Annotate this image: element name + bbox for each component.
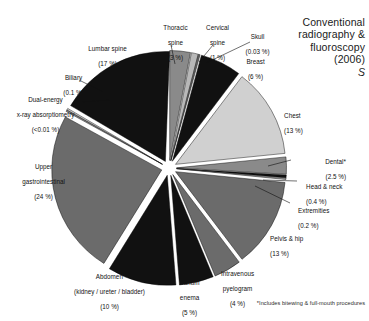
label-text: Thoracic (163, 24, 187, 31)
slice-label-chest: Chest (13 %) (277, 104, 327, 142)
label-text: spine (210, 39, 225, 46)
label-value: (5 %) (182, 309, 197, 316)
label-value: (6 %) (248, 73, 263, 80)
label-value: (17 %) (98, 60, 117, 67)
label-text: Pelvis & hip (270, 235, 303, 242)
label-text: gastrointestinal (22, 178, 65, 185)
label-text: Head & neck (306, 183, 342, 190)
label-text: Intravenous (221, 270, 254, 277)
chart-title: Conventional radiography & fluoroscopy (… (298, 16, 365, 78)
label-text: Lumbar spine (88, 45, 126, 52)
title-series-mark: S (298, 66, 365, 78)
slice-label-barium-enema: Barium enema (5 %) (164, 271, 208, 321)
label-value: (13 %) (270, 250, 289, 257)
chart-footnote: *Includes bitewing & full-mouth procedur… (257, 300, 365, 306)
title-line-2: radiography & (298, 28, 365, 40)
title-line-4: (2006) (334, 53, 365, 65)
label-text: (kidney / ureter / bladder) (74, 288, 145, 295)
label-text: x-ray absorptiometry (17, 111, 75, 118)
label-text: Upper (35, 163, 52, 170)
slice-label-abdomen: Abdomen (kidney / ureter / bladder) (10 … (44, 265, 168, 319)
label-text: Cervical (206, 24, 229, 31)
label-value: (24 %) (34, 193, 53, 200)
title-line-3: fluoroscopy (310, 41, 365, 53)
slice-label-intravenous-pyelogram: Intravenous pyelogram (4 %) (205, 262, 263, 316)
label-value: (3 %) (168, 54, 183, 61)
slice-label-lumbar-spine: Lumbar spine (17 %) (66, 37, 142, 75)
label-text: Breast (246, 58, 264, 65)
label-text: Skull (251, 33, 265, 40)
label-text: spine (168, 39, 183, 46)
slice-label-breast: Breast (6 %) (228, 50, 276, 88)
label-text: Dental* (325, 158, 346, 165)
label-value: (10 %) (100, 303, 119, 310)
label-value: (1 %) (210, 54, 225, 61)
label-text: pyelogram (223, 285, 253, 292)
title-line-1: Conventional (303, 16, 366, 28)
label-value: (<0.01 %) (32, 126, 60, 133)
label-text: Abdomen (96, 273, 123, 280)
label-value: (0.1 %) (63, 89, 83, 96)
label-value: (4 %) (230, 300, 245, 307)
label-text: Barium (180, 279, 200, 286)
slice-label-upper-gastrointestinal: Upper gastrointestinal (24 %) (8, 155, 72, 209)
label-text: enema (180, 294, 199, 301)
label-value: (13 %) (284, 127, 303, 134)
label-text: Chest (284, 112, 301, 119)
slice-label-pelvis-and-hip: Pelvis & hip (13 %) (263, 227, 323, 265)
label-text: Extremities (298, 207, 329, 214)
